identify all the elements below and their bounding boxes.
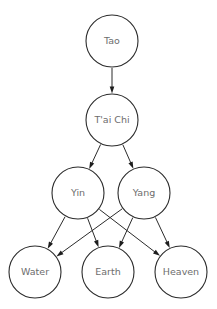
node-label-tao: Tao bbox=[103, 35, 120, 46]
node-heaven[interactable]: Heaven bbox=[155, 246, 207, 298]
edge-taichi-to-yin bbox=[89, 144, 100, 169]
node-label-taichi: T'ai Chi bbox=[93, 114, 129, 125]
node-taichi[interactable]: T'ai Chi bbox=[86, 94, 138, 146]
edge-yang-to-heaven bbox=[155, 217, 169, 248]
edge-taichi-to-yang bbox=[123, 145, 134, 169]
node-label-heaven: Heaven bbox=[163, 266, 199, 277]
edge-line bbox=[51, 217, 66, 244]
edge-line bbox=[92, 144, 101, 163]
node-water[interactable]: Water bbox=[9, 246, 61, 298]
node-tao[interactable]: Tao bbox=[86, 15, 138, 67]
node-yang[interactable]: Yang bbox=[118, 167, 170, 219]
edge-line bbox=[155, 217, 167, 242]
edge-line bbox=[88, 218, 97, 241]
edge-tao-to-taichi bbox=[110, 68, 115, 94]
arrowhead-icon bbox=[153, 250, 160, 256]
arrowhead-icon bbox=[119, 241, 124, 248]
edge-line bbox=[121, 218, 132, 243]
node-yin[interactable]: Yin bbox=[52, 167, 104, 219]
arrowhead-icon bbox=[56, 250, 63, 256]
node-label-yang: Yang bbox=[132, 187, 155, 198]
diagram-svg: TaoT'ai ChiYinYangWaterEarthHeaven bbox=[0, 0, 217, 309]
diagram-canvas: TaoT'ai ChiYinYangWaterEarthHeaven bbox=[0, 0, 217, 309]
node-label-earth: Earth bbox=[95, 266, 120, 277]
arrowhead-icon bbox=[165, 241, 170, 248]
edge-yang-to-earth bbox=[119, 218, 133, 248]
arrowhead-icon bbox=[110, 87, 115, 94]
node-label-yin: Yin bbox=[70, 187, 85, 198]
node-label-water: Water bbox=[21, 266, 49, 277]
edge-line bbox=[123, 145, 131, 164]
node-earth[interactable]: Earth bbox=[82, 246, 134, 298]
edge-yin-to-water bbox=[48, 217, 65, 249]
arrowhead-icon bbox=[94, 240, 99, 247]
arrowhead-icon bbox=[48, 241, 53, 248]
arrowhead-icon bbox=[89, 162, 94, 169]
node-layer: TaoT'ai ChiYinYangWaterEarthHeaven bbox=[9, 15, 207, 298]
arrowhead-icon bbox=[128, 161, 133, 168]
